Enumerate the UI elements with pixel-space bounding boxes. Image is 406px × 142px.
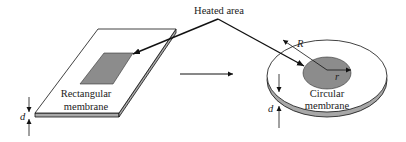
- membrane-diagram: Rectangular membrane d R r Circular memb…: [0, 0, 406, 142]
- outer-radius-symbol: R: [296, 38, 304, 49]
- circ-thickness-symbol: d: [268, 103, 274, 114]
- heated-area-label: Heated area: [194, 5, 244, 16]
- circ-heated-area: [303, 57, 351, 89]
- rect-thickness-symbol: d: [20, 111, 26, 122]
- rect-label-line2: membrane: [64, 101, 109, 112]
- circ-label-line2: membrane: [305, 100, 350, 111]
- circ-label-line1: Circular: [310, 88, 345, 99]
- rect-label-line1: Rectangular: [61, 88, 112, 99]
